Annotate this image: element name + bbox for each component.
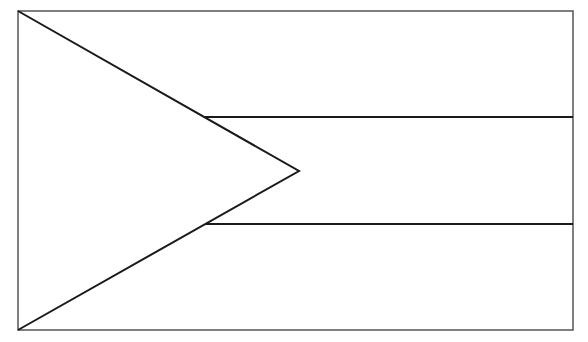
flag-outline-diagram xyxy=(0,0,588,342)
